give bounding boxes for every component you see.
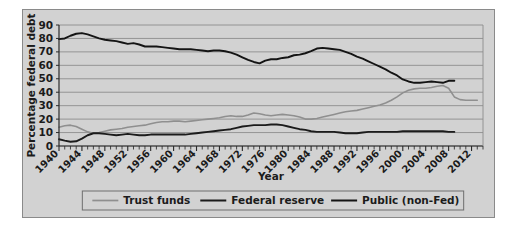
x-tick-label: 1948 — [79, 148, 106, 175]
chart-legend: Trust fundsFederal reservePublic (non-Fe… — [82, 191, 463, 210]
x-tick-label: 1956 — [125, 148, 152, 175]
x-tick-label: 1960 — [148, 148, 175, 175]
x-tick-label: 1988 — [308, 148, 335, 175]
chart-svg: 0102030405060708090 19401944194819521956… — [23, 10, 494, 217]
y-tick-label: 40 — [38, 86, 53, 98]
x-tick-label: 1972 — [216, 148, 243, 175]
x-axis-title-text: Year — [257, 170, 285, 182]
x-tick-label: 1944 — [56, 148, 83, 175]
y-axis-title: Percentage federal debt — [25, 13, 37, 157]
y-tick-label: 20 — [38, 113, 53, 125]
y-tick-label: 30 — [38, 99, 53, 111]
x-tick-label: 1992 — [331, 148, 358, 175]
x-tick-label: 1968 — [193, 148, 220, 175]
legend-label: Trust funds — [123, 194, 190, 206]
y-tick-label: 90 — [38, 19, 53, 31]
legend-label: Federal reserve — [231, 194, 324, 206]
x-tick-label: 2000 — [377, 148, 404, 175]
y-tick-label: 60 — [38, 59, 53, 71]
y-axis-title-text: Percentage federal debt — [25, 13, 37, 157]
x-tick-label: 1964 — [170, 148, 197, 175]
legend-label: Public (non-Fed) — [362, 194, 459, 206]
x-tick-labels: 1940194419481952195619601964196819721976… — [33, 148, 473, 175]
x-tick-label: 2012 — [445, 148, 472, 175]
chart-panel: 0102030405060708090 19401944194819521956… — [22, 9, 495, 218]
x-tick-label: 1952 — [102, 148, 129, 175]
x-tick-label: 2008 — [423, 148, 450, 175]
x-tick-label: 1984 — [285, 148, 312, 175]
y-tick-label: 50 — [38, 72, 53, 84]
y-tick-label: 80 — [38, 32, 53, 44]
chart-figure: 0102030405060708090 19401944194819521956… — [0, 0, 521, 233]
y-tick-label: 10 — [38, 126, 53, 138]
x-tick-label: 2004 — [400, 148, 427, 175]
y-tick-label: 70 — [38, 45, 53, 57]
x-axis-title: Year — [257, 170, 285, 182]
x-tick-label: 1940 — [33, 148, 60, 175]
x-tick-label: 1996 — [354, 148, 381, 175]
y-tick-labels: 0102030405060708090 — [38, 19, 53, 152]
